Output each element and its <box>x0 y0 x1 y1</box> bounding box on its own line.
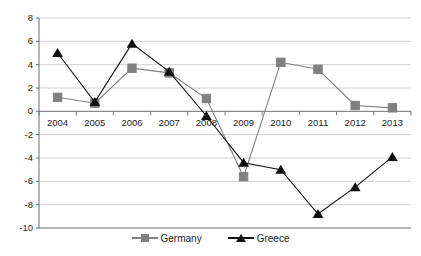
data-point-greece-2013 <box>387 152 398 161</box>
y-axis-tick-label: 6 <box>0 35 33 46</box>
data-point-germany-2004 <box>53 93 61 101</box>
x-axis-tick-label: 2011 <box>299 117 336 128</box>
x-axis-tick-label: 2005 <box>76 117 113 128</box>
x-axis-tick-label: 2004 <box>39 117 76 128</box>
y-axis-tick-label: 8 <box>0 12 33 23</box>
legend-label-greece: Greece <box>257 233 290 244</box>
line-chart: GermanyGreece 86420-2-4-6-8-102004200520… <box>0 0 421 256</box>
y-axis-tick-label: -2 <box>0 129 33 140</box>
data-point-germany-2013 <box>388 104 396 112</box>
triangle-marker-icon <box>236 234 246 242</box>
data-point-greece-2011 <box>313 209 324 218</box>
x-axis-tick-label: 2007 <box>151 117 188 128</box>
data-point-germany-2008 <box>202 94 210 102</box>
data-point-greece-2009 <box>238 158 249 167</box>
data-point-greece-2004 <box>52 48 63 57</box>
legend-entry-greece[interactable]: Greece <box>228 233 290 244</box>
data-point-germany-2009 <box>239 172 247 180</box>
y-axis-tick-label: 4 <box>0 59 33 70</box>
y-axis-tick-label: -6 <box>0 175 33 186</box>
x-axis-tick-label: 2009 <box>225 117 262 128</box>
y-axis-tick-label: 2 <box>0 82 33 93</box>
legend-entry-germany[interactable]: Germany <box>132 233 202 244</box>
x-axis-tick-label: 2013 <box>374 117 411 128</box>
data-point-germany-2011 <box>314 65 322 73</box>
y-axis-tick-label: -8 <box>0 199 33 210</box>
data-point-greece-2006 <box>127 39 138 48</box>
legend-line-greece <box>228 237 254 238</box>
y-axis-tick-label: -10 <box>0 222 33 233</box>
data-point-germany-2010 <box>277 58 285 66</box>
legend-line-germany <box>132 237 158 238</box>
data-point-germany-2006 <box>128 64 136 72</box>
x-axis-tick-label: 2010 <box>262 117 299 128</box>
x-axis-tick-label: 2012 <box>337 117 374 128</box>
square-marker-icon <box>141 234 149 242</box>
data-point-germany-2012 <box>351 101 359 109</box>
y-axis-tick-label: -4 <box>0 152 33 163</box>
y-axis-tick-label: 0 <box>0 105 33 116</box>
x-axis-tick-label: 2008 <box>188 117 225 128</box>
x-axis-tick-label: 2006 <box>113 117 150 128</box>
series-line-greece <box>58 44 393 214</box>
chart-legend: GermanyGreece <box>0 228 421 248</box>
legend-label-germany: Germany <box>161 233 202 244</box>
